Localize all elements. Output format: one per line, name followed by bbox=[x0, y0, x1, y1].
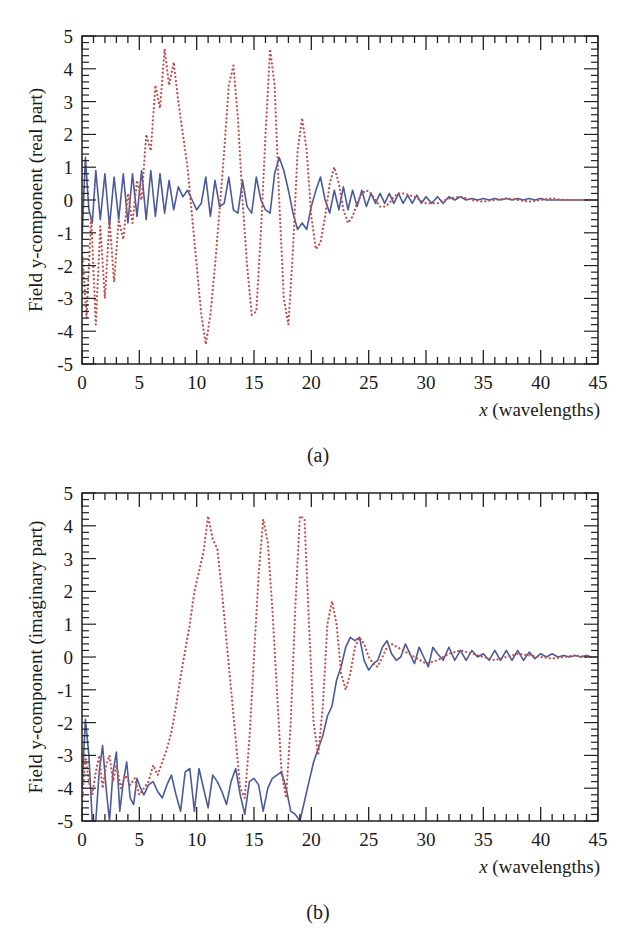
chart-panel-b: 051015202530354045543210-1-2-3-4-5x (wav… bbox=[0, 0, 633, 941]
y-tick-label: 2 bbox=[64, 581, 74, 602]
plot-area bbox=[82, 516, 598, 821]
y-tick-label: -1 bbox=[57, 680, 73, 701]
panel-caption: (b) bbox=[306, 901, 329, 924]
x-tick-label: 5 bbox=[135, 829, 145, 850]
y-tick-label: -4 bbox=[57, 778, 73, 799]
y-tick-label: 5 bbox=[64, 483, 74, 504]
x-tick-label: 25 bbox=[359, 829, 378, 850]
y-tick-label: 3 bbox=[64, 549, 74, 570]
x-axis-title: x (wavelengths) bbox=[478, 856, 600, 878]
x-tick-label: 30 bbox=[417, 829, 436, 850]
y-tick-label: -3 bbox=[57, 745, 73, 766]
x-tick-label: 40 bbox=[531, 829, 550, 850]
x-tick-label: 20 bbox=[302, 829, 321, 850]
x-tick-label: 45 bbox=[589, 829, 608, 850]
y-axis-title: Field y-component (imaginary part) bbox=[25, 521, 47, 794]
y-tick-label: 0 bbox=[64, 647, 74, 668]
dotted-series-line bbox=[82, 516, 598, 805]
y-tick-label: -2 bbox=[57, 713, 73, 734]
y-tick-label: 4 bbox=[64, 516, 74, 537]
chart-b-svg: 051015202530354045543210-1-2-3-4-5x (wav… bbox=[0, 0, 633, 941]
x-tick-label: 15 bbox=[245, 829, 264, 850]
x-tick-label: 35 bbox=[474, 829, 493, 850]
x-tick-label: 0 bbox=[77, 829, 87, 850]
y-tick-label: -5 bbox=[57, 811, 73, 832]
y-tick-label: 1 bbox=[64, 614, 74, 635]
x-tick-label: 10 bbox=[187, 829, 206, 850]
